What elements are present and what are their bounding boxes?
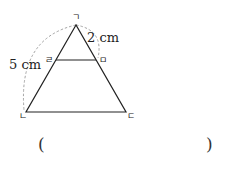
measure-left: 5 cm [9, 57, 41, 72]
label-apex: ㄱ [72, 12, 80, 22]
label-left-mid: ㄹ [45, 55, 53, 65]
measure-right: 2 cm [87, 30, 119, 45]
answer-open-paren: ( [38, 134, 45, 154]
label-bottom-left: ㄴ [19, 111, 27, 121]
answer-blank[interactable] [55, 134, 205, 156]
answer-close-paren: ) [206, 134, 213, 154]
label-bottom-right: ㄷ [127, 111, 135, 121]
label-right-mid: ㅁ [99, 55, 107, 65]
